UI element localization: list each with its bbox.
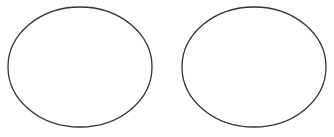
diagram-canvas	[0, 0, 334, 137]
left-ellipse	[8, 7, 152, 127]
right-ellipse	[182, 7, 326, 127]
